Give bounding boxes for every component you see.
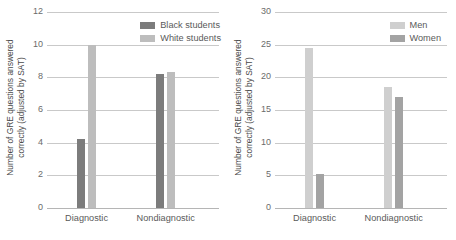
y-axis-title-line-2-right: correctly (adjusted by SAT) — [243, 39, 254, 175]
chart-panel-left: Number of GRE questions answered correct… — [0, 0, 228, 240]
y-tick-label-5-right: 5 — [266, 169, 271, 179]
plot-area-left: 0 2 4 6 8 10 12 — [47, 12, 219, 208]
bar-group-diagnostic-right: Diagnostic — [285, 12, 343, 208]
bar-black-students-diagnostic[interactable] — [77, 139, 85, 208]
legend-label-white-students: White students — [160, 33, 221, 43]
y-tick-label-12: 12 — [33, 6, 43, 16]
legend-swatch-men — [390, 22, 405, 29]
legend-item-white-students[interactable]: White students — [140, 33, 221, 43]
bar-women-diagnostic[interactable] — [316, 174, 324, 208]
y-tick-label-10-right: 10 — [261, 137, 271, 147]
y-axis-title-line-1-right: Number of GRE questions answered — [233, 39, 244, 175]
y-axis-title-right: Number of GRE questions answered correct… — [228, 0, 258, 215]
gridline-0-right: 0 — [275, 208, 447, 209]
bar-men-nondiagnostic[interactable] — [384, 87, 392, 208]
y-tick-label-2: 2 — [38, 169, 43, 179]
y-tick-label-20-right: 20 — [261, 71, 271, 81]
x-tick-label-diagnostic-right: Diagnostic — [293, 213, 336, 223]
legend-label-black-students: Black students — [160, 20, 220, 30]
legend-swatch-women — [390, 35, 405, 42]
y-axis-title-line-1: Number of GRE questions answered — [5, 39, 16, 175]
bar-white-students-nondiagnostic[interactable] — [167, 72, 175, 208]
bar-men-diagnostic[interactable] — [305, 48, 313, 208]
y-axis-title-left: Number of GRE questions answered correct… — [0, 0, 30, 215]
y-tick-label-15-right: 15 — [261, 104, 271, 114]
chart-panel-right: Number of GRE questions answered correct… — [228, 0, 456, 240]
bar-black-students-nondiagnostic[interactable] — [156, 74, 164, 208]
legend-label-women: Women — [410, 33, 442, 43]
bar-group-diagnostic: Diagnostic — [57, 12, 115, 208]
y-tick-label-8: 8 — [38, 71, 43, 81]
legend-item-men[interactable]: Men — [390, 20, 442, 30]
gridline-0: 0 — [47, 208, 219, 209]
legend-right: Men Women — [390, 20, 442, 43]
legend-item-black-students[interactable]: Black students — [140, 20, 221, 30]
bar-white-students-diagnostic[interactable] — [88, 45, 96, 208]
two-panel-bar-chart-figure: Number of GRE questions answered correct… — [0, 0, 456, 240]
plot-area-right: 0 5 10 15 20 25 30 — [275, 12, 447, 208]
legend-left: Black students White students — [140, 20, 221, 43]
legend-swatch-white-students — [140, 35, 155, 42]
y-tick-label-4: 4 — [38, 137, 43, 147]
legend-swatch-black-students — [140, 22, 155, 29]
legend-label-men: Men — [410, 20, 428, 30]
legend-item-women[interactable]: Women — [390, 33, 442, 43]
y-tick-label-6: 6 — [38, 104, 43, 114]
y-tick-label-25-right: 25 — [261, 39, 271, 49]
x-tick-label-nondiagnostic-right: Nondiagnostic — [365, 213, 423, 223]
x-tick-label-nondiagnostic: Nondiagnostic — [137, 213, 195, 223]
y-tick-label-0-right: 0 — [266, 202, 271, 212]
bar-women-nondiagnostic[interactable] — [395, 97, 403, 208]
y-tick-label-0: 0 — [38, 202, 43, 212]
y-tick-label-10: 10 — [33, 39, 43, 49]
y-axis-title-line-2: correctly (adjusted by SAT) — [15, 39, 26, 175]
y-tick-label-30-right: 30 — [261, 6, 271, 16]
x-tick-label-diagnostic: Diagnostic — [65, 213, 108, 223]
